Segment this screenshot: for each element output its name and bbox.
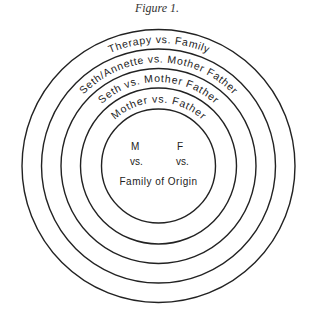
center-label-f: F (177, 141, 183, 152)
center-label-m: M (131, 141, 139, 152)
concentric-circles-diagram: Therapy vs. Family Seth/Annette vs. Moth… (0, 0, 314, 319)
ring-circle-4 (81, 88, 237, 244)
center-label-vs-left: vs. (130, 156, 143, 167)
ring-circle-2 (42, 49, 276, 283)
ring-circle-1 (22, 30, 295, 303)
center-label-family-of-origin: Family of Origin (0, 176, 314, 187)
center-label-vs-right: vs. (176, 156, 189, 167)
svg-text:Therapy vs. Family: Therapy vs. Family (106, 33, 212, 55)
ring-circle-5 (102, 109, 216, 223)
ring-label-therapy: Therapy vs. Family (106, 33, 212, 55)
